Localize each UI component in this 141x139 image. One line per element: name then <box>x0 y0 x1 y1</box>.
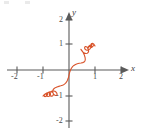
x-tick-label-pos1: 1 <box>93 73 97 81</box>
y-tick-label-neg2: -2 <box>56 117 63 125</box>
y-tick-label-neg1: -1 <box>56 92 63 100</box>
x-tick-label-neg1: -1 <box>37 73 44 81</box>
y-axis-label: y <box>72 8 76 17</box>
x-tick-label-neg2: -2 <box>11 73 18 81</box>
x-axis-label: x <box>131 64 135 73</box>
y-tick-label-pos1: 1 <box>59 40 63 48</box>
y-tick-label-pos2: 2 <box>59 16 63 24</box>
axes-group <box>7 18 123 128</box>
figure-container: -2 -1 1 2 2 1 -1 -2 x y <box>0 0 141 139</box>
x-tick-label-pos2: 2 <box>119 73 123 81</box>
cornu-spiral-plot <box>0 0 141 139</box>
